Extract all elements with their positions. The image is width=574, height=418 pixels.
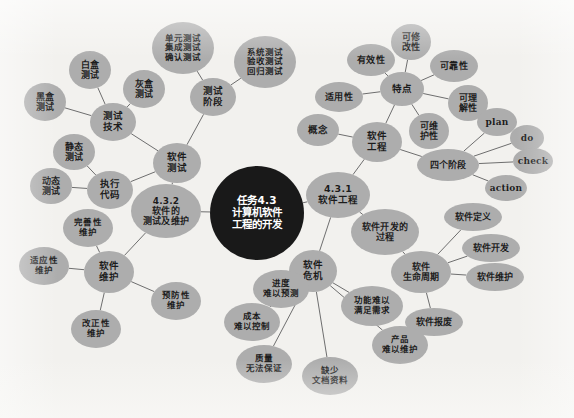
mindmap-node-label: action <box>488 183 525 193</box>
mindmap-node-ruanjianweihu2[interactable]: 软件 维护 <box>84 251 134 293</box>
mindmap-node-kexiugaixing[interactable]: 可修 改性 <box>391 24 431 60</box>
mindmap-node-label: 成本 难以控制 <box>232 312 273 331</box>
mindmap-edge-ruanjianceshi-to-ceshijishu <box>131 134 158 151</box>
mindmap-node-ruanjianweihu[interactable]: 软件维护 <box>466 263 524 291</box>
mindmap-edge-sigejieduan-to-plan <box>464 133 485 151</box>
mindmap-node-gaizhengxing[interactable]: 改正性 维护 <box>71 310 121 348</box>
mindmap-node-baihe[interactable]: 白盒 测试 <box>69 51 111 89</box>
mindmap-edge-sigejieduan-to-do <box>474 143 512 156</box>
mindmap-node-label: 4.3.2 软件的 测试及维护 <box>141 196 191 226</box>
mindmap-node-action[interactable]: action <box>485 175 527 201</box>
mindmap-edge-ruanjianweihu2-to-yufangxing <box>131 282 154 292</box>
mindmap-edge-n431-to-ruanjiangongcheng <box>353 159 364 174</box>
mindmap-node-label: 白盒 测试 <box>79 60 101 80</box>
mindmap-node-jingtai[interactable]: 静态 测试 <box>53 134 95 170</box>
mindmap-node-label: 产品 难以维护 <box>380 335 421 354</box>
mindmap-node-shiyongxing[interactable]: 适用性 <box>315 82 363 112</box>
mindmap-node-label: 任务4.3 计算机软件 工程的开发 <box>230 195 285 230</box>
mindmap-node-label: do <box>519 133 536 143</box>
mindmap-node-dongtai[interactable]: 动态 测试 <box>30 168 72 204</box>
mindmap-node-youxiaoxing[interactable]: 有效性 <box>347 44 395 76</box>
mindmap-node-label: 有效性 <box>355 55 387 65</box>
mindmap-node-ceshijishu[interactable]: 测试 技术 <box>90 103 136 141</box>
mindmap-node-danyuan[interactable]: 单元测试 集成测试 确认测试 <box>152 22 214 74</box>
mindmap-edge-ruanjianweihu2-to-shiyingxing <box>69 268 84 269</box>
mindmap-node-chanpin[interactable]: 产品 难以维护 <box>372 326 428 364</box>
mindmap-node-kaifaguocheng[interactable]: 软件开发的 过程 <box>351 209 419 255</box>
mindmap-node-ruanjianceshi[interactable]: 软件 测试 <box>153 143 201 183</box>
mindmap-node-label: 测试 阶段 <box>201 86 225 107</box>
mindmap-node-label: plan <box>484 117 511 127</box>
mindmap-edge-ruanjianceshi-to-zhixingdaima <box>131 172 156 182</box>
mindmap-edge-n431-to-weiji <box>320 217 331 250</box>
mindmap-node-label: 四个阶段 <box>428 160 469 170</box>
mindmap-node-label: 软件定义 <box>453 212 494 222</box>
mindmap-node-sigejieduan[interactable]: 四个阶段 <box>417 149 479 181</box>
mindmap-edge-zhixingdaima-to-jingtai <box>87 166 96 175</box>
mindmap-node-label: 可靠性 <box>438 61 470 71</box>
mindmap-node-wanshanxing[interactable]: 完善性 维护 <box>63 209 113 247</box>
mindmap-node-ceshijieduan[interactable]: 测试 阶段 <box>190 78 236 116</box>
mindmap-edge-tedian-to-shiyongxing <box>363 92 381 94</box>
mindmap-node-label: 软件报废 <box>414 317 455 327</box>
mindmap-edge-zhixingdaima-to-dongtai <box>72 187 87 188</box>
mindmap-edge-tedian-to-keweihuxing <box>412 104 419 115</box>
mindmap-node-label: 功能难以 满足需求 <box>352 296 393 315</box>
mindmap-edge-tedian-to-kexiugaixing <box>405 60 407 72</box>
mindmap-edge-tedian-to-kekaoxing <box>421 75 434 81</box>
mindmap-node-shengmingzhouqi[interactable]: 软件 生命周期 <box>391 251 451 293</box>
mindmap-node-chengben[interactable]: 成本 难以控制 <box>224 303 280 341</box>
mindmap-edge-ruanjiangongcheng-to-sigejieduan <box>400 150 422 157</box>
mindmap-node-quewen[interactable]: 缺少 文档资料 <box>302 357 358 395</box>
mindmap-node-zhixingdaima[interactable]: 执行 代码 <box>87 171 133 209</box>
mindmap-node-ruanjiankaifa[interactable]: 软件开发 <box>462 234 520 262</box>
mindmap-node-label: 进度 难以预测 <box>261 279 302 298</box>
mindmap-edge-ceshijishu-to-baihe <box>98 88 105 105</box>
mindmap-node-center[interactable]: 任务4.3 计算机软件 工程的开发 <box>210 166 304 260</box>
mindmap-edge-ruanjianweihu2-to-gaizhengxing <box>100 293 104 311</box>
mindmap-edge-shengmingzhouqi-to-ruanjianweihu <box>451 274 466 275</box>
mindmap-node-label: 动态 测试 <box>40 176 62 196</box>
mindmap-node-n431[interactable]: 4.3.1 软件工程 <box>306 172 370 218</box>
mindmap-node-label: 单元测试 集成测试 确认测试 <box>163 34 204 63</box>
mindmap-node-tedian[interactable]: 特点 <box>380 72 424 106</box>
mindmap-node-kekaoxing[interactable]: 可靠性 <box>430 50 478 82</box>
mindmap-node-check[interactable]: check <box>513 148 553 174</box>
mindmap-edge-ruanjiangongcheng-to-tedian <box>386 105 395 123</box>
mindmap-node-huihe[interactable]: 灰盒 测试 <box>123 70 165 108</box>
mindmap-edge-sigejieduan-to-action <box>473 175 489 181</box>
mindmap-node-do[interactable]: do <box>510 125 544 151</box>
mindmap-node-gainian[interactable]: 概念 <box>297 114 339 146</box>
mindmap-node-label: 软件维护 <box>475 272 516 282</box>
mindmap-node-label: 软件开发的 过程 <box>360 222 410 242</box>
mindmap-edge-ceshijieduan-to-danyuan <box>197 71 202 80</box>
mindmap-node-label: 改正性 维护 <box>80 319 112 338</box>
mindmap-node-label: 软件 维护 <box>97 261 121 282</box>
mindmap-node-label: 软件 工程 <box>365 131 389 152</box>
mindmap-node-label: 可修 改性 <box>400 32 422 52</box>
mindmap-node-yufangxing[interactable]: 预防性 维护 <box>151 282 201 320</box>
mindmap-node-jindu[interactable]: 进度 难以预测 <box>253 270 309 308</box>
mindmap-node-ruanjiangongcheng[interactable]: 软件 工程 <box>352 122 402 162</box>
mindmap-edge-shengmingzhouqi-to-ruanjiandingyi <box>438 230 461 255</box>
mindmap-edge-ruanjianceshi-to-ceshijieduan <box>187 114 204 144</box>
mindmap-node-label: 软件 测试 <box>165 152 189 173</box>
mindmap-node-zhiliang[interactable]: 质量 无法保证 <box>236 345 292 383</box>
mindmap-node-keweihuxing[interactable]: 可维 护性 <box>409 113 449 149</box>
mindmap-node-label: 执行 代码 <box>98 179 122 200</box>
mindmap-edge-shengmingzhouqi-to-ruanjiankaifa <box>448 256 467 263</box>
mindmap-edge-ceshijishu-to-heihe <box>65 108 91 116</box>
mindmap-node-heihe[interactable]: 黑盒 测试 <box>24 83 66 121</box>
mindmap-node-label: 静态 测试 <box>63 142 85 162</box>
mindmap-edge-tedian-to-kelijiexing <box>423 94 448 99</box>
mindmap-node-label: 适应性 维护 <box>28 256 60 275</box>
mindmap-node-gongneng[interactable]: 功能难以 满足需求 <box>341 286 403 326</box>
mindmap-edge-ceshijieduan-to-xitong <box>231 78 241 85</box>
mindmap-node-n432[interactable]: 4.3.2 软件的 测试及维护 <box>131 184 201 238</box>
mindmap-edge-weiji-to-gongneng <box>333 283 349 293</box>
mindmap-node-label: 可理 解性 <box>457 93 479 113</box>
mindmap-node-xitong[interactable]: 系统测试 验收测试 回归测试 <box>234 36 296 88</box>
mindmap-node-label: 黑盒 测试 <box>34 92 56 112</box>
mindmap-node-shiyingxing[interactable]: 适应性 维护 <box>19 247 69 285</box>
mindmap-node-ruanjiandingyi[interactable]: 软件定义 <box>444 203 502 231</box>
